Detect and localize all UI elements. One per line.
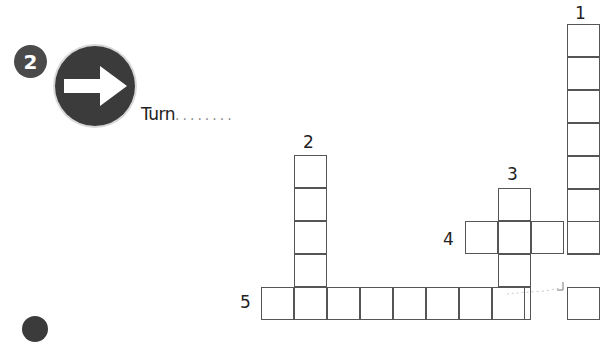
crossword-cell[interactable] — [459, 287, 492, 320]
crossword-cell[interactable] — [567, 90, 600, 123]
crossword-cell[interactable] — [498, 221, 531, 254]
crossword-cell[interactable] — [261, 287, 294, 320]
crossword-cell[interactable] — [294, 287, 327, 320]
arrow-right-icon — [55, 46, 135, 126]
crossword-cell[interactable] — [294, 155, 327, 188]
crossword-cell[interactable] — [294, 254, 327, 287]
crossword-cell[interactable] — [567, 221, 600, 254]
crossword-cell[interactable] — [327, 287, 360, 320]
crossword-cell[interactable] — [465, 221, 498, 254]
answer-blank[interactable]: ........ — [175, 107, 235, 123]
clue-number-1: 1 — [575, 3, 586, 23]
clue-number-2: 2 — [303, 132, 314, 152]
crossword-cell[interactable] — [567, 156, 600, 189]
clue-number-3: 3 — [507, 164, 518, 184]
next-exercise-badge — [22, 316, 48, 342]
crossword-cell[interactable] — [294, 188, 327, 221]
prompt-text: Turn — [141, 104, 175, 124]
exercise-number-badge: 2 — [14, 45, 47, 78]
turn-right-sign — [55, 46, 135, 126]
crossword-cell[interactable] — [567, 123, 600, 156]
clue-number-5: 5 — [240, 292, 251, 312]
crossword-cell[interactable] — [498, 188, 531, 221]
crossword-cell[interactable] — [567, 57, 600, 90]
pencil-trace-mark — [505, 282, 565, 297]
crossword-cell[interactable] — [426, 287, 459, 320]
turn-prompt: Turn........ — [141, 104, 235, 124]
clue-number-4: 4 — [443, 229, 454, 249]
crossword-cell[interactable] — [294, 221, 327, 254]
crossword-cell[interactable] — [567, 189, 600, 222]
crossword-cell[interactable] — [360, 287, 393, 320]
crossword-cell[interactable] — [393, 287, 426, 320]
crossword-cell[interactable] — [567, 24, 600, 57]
crossword-cell[interactable] — [531, 221, 564, 254]
crossword-cell[interactable] — [567, 287, 600, 320]
